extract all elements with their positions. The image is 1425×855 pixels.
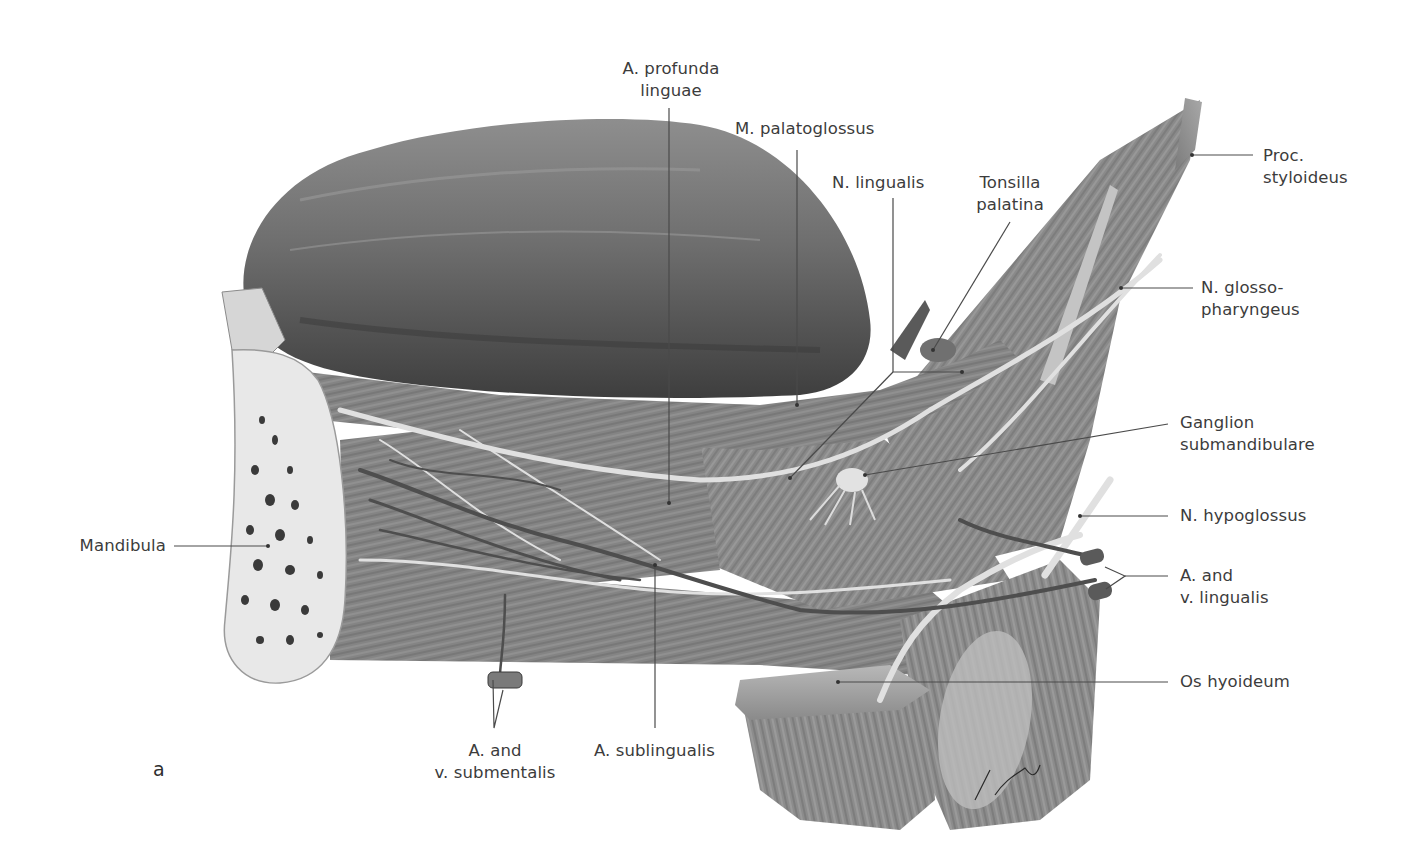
label-mandibula: Mandibula xyxy=(60,535,166,557)
label-a-v-lingualis: A. and v. lingualis xyxy=(1180,565,1269,609)
label-proc-styloideus: Proc. styloideus xyxy=(1263,145,1348,189)
tongue xyxy=(243,119,870,398)
label-n-hypoglossus: N. hypoglossus xyxy=(1180,505,1306,527)
label-a-v-submentalis: A. and v. submentalis xyxy=(425,740,565,784)
panel-letter: a xyxy=(153,758,165,780)
label-a-profunda-linguae: A. profunda linguae xyxy=(608,58,734,102)
label-a-sublingualis: A. sublingualis xyxy=(594,740,715,762)
label-m-palatoglossus: M. palatoglossus xyxy=(735,118,875,140)
label-ganglion-submandibulare: Ganglion submandibulare xyxy=(1180,412,1315,456)
label-os-hyoideum: Os hyoideum xyxy=(1180,671,1290,693)
label-tonsilla-palatina: Tonsilla palatina xyxy=(965,172,1055,216)
label-n-lingualis: N. lingualis xyxy=(832,172,924,194)
label-n-glossopharyngeus: N. glosso- pharyngeus xyxy=(1201,277,1300,321)
